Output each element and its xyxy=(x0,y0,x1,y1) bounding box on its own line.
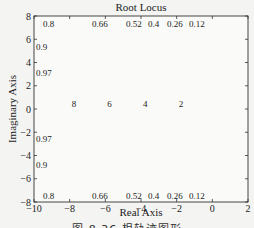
damping-label: 0.12 xyxy=(189,19,205,29)
damping-label: 0.4 xyxy=(148,191,160,201)
damping-label: 0.26 xyxy=(167,191,183,201)
x-tick-label: −8 xyxy=(64,203,75,214)
y-tick-label: −6 xyxy=(20,173,31,184)
x-tick-label: 2 xyxy=(246,203,251,214)
wn-label: 6 xyxy=(107,99,112,109)
plot-area: 0.80.80.660.660.520.520.40.40.260.260.12… xyxy=(0,0,254,228)
damping-label: 0.26 xyxy=(167,19,183,29)
plot-background xyxy=(34,16,248,202)
x-tick-label: −2 xyxy=(171,203,182,214)
x-tick-label: −4 xyxy=(136,203,147,214)
root-locus-figure: Root Locus Imaginary Axis Real Axis 图 8.… xyxy=(0,0,254,228)
damping-label: 0.52 xyxy=(126,191,142,201)
y-tick-label: 4 xyxy=(26,57,31,68)
damping-label: 0.66 xyxy=(92,19,108,29)
damping-label: 0.97 xyxy=(36,134,52,144)
x-tick-label: 0 xyxy=(210,203,215,214)
wn-label: 8 xyxy=(72,99,77,109)
wn-label: 4 xyxy=(143,99,148,109)
y-tick-label: −2 xyxy=(20,127,31,138)
x-tick-label: −6 xyxy=(100,203,111,214)
damping-label: 0.66 xyxy=(92,191,108,201)
damping-label: 0.8 xyxy=(43,191,55,201)
y-tick-label: −4 xyxy=(20,150,31,161)
wn-label: 2 xyxy=(179,99,184,109)
damping-label: 0.4 xyxy=(148,19,160,29)
damping-label: 0.9 xyxy=(36,42,48,52)
y-tick-label: 6 xyxy=(26,34,31,45)
damping-label: 0.97 xyxy=(36,68,52,78)
damping-label: 0.12 xyxy=(189,191,205,201)
y-tick-label: 2 xyxy=(26,80,31,91)
y-tick-label: −8 xyxy=(20,197,31,208)
y-tick-label: 8 xyxy=(26,11,31,22)
damping-label: 0.8 xyxy=(43,19,55,29)
damping-label: 0.9 xyxy=(36,160,48,170)
damping-label: 0.52 xyxy=(126,19,142,29)
y-tick-label: 0 xyxy=(26,104,31,115)
